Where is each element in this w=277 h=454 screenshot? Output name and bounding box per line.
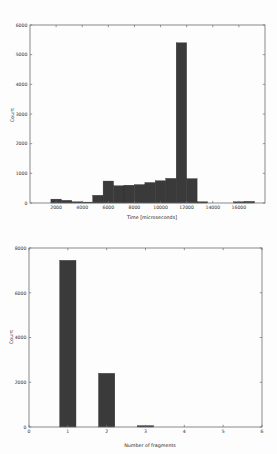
- bar: [61, 200, 71, 203]
- chart-panel-time-histogram: 2000400060008000100001200014000160000100…: [0, 0, 277, 227]
- y-tick-label: 6000: [16, 23, 28, 28]
- y-tick-label: 2000: [15, 380, 27, 385]
- y-tick-label: 2000: [16, 141, 28, 146]
- x-tick-label: 1: [66, 429, 69, 434]
- y-tick-label: 1000: [16, 171, 28, 176]
- panel-background: [0, 227, 277, 454]
- y-tick-label: 6000: [15, 291, 27, 296]
- x-tick-label: 12000: [179, 205, 194, 210]
- x-tick-label: 4: [183, 429, 186, 434]
- fragment-histogram-xlabel: Number of fragments: [124, 443, 176, 448]
- bar: [114, 186, 124, 203]
- y-tick-label: 4000: [15, 335, 27, 340]
- y-tick-label: 4000: [16, 82, 28, 87]
- bar: [166, 178, 176, 203]
- bar: [99, 373, 115, 427]
- time-histogram-ylabel: Count: [10, 108, 15, 122]
- bar: [155, 181, 165, 203]
- time-histogram-plot: 2000400060008000100001200014000160000100…: [0, 0, 277, 227]
- bar: [134, 185, 144, 203]
- x-tick-label: 3: [144, 429, 147, 434]
- x-tick-label: 6000: [102, 205, 114, 210]
- x-tick-label: 10000: [153, 205, 168, 210]
- x-tick-label: 2: [105, 429, 108, 434]
- bar: [60, 260, 76, 427]
- x-tick-label: 4000: [76, 205, 88, 210]
- x-tick-label: 16000: [232, 205, 247, 210]
- fragment-histogram-plot: 012345602000400060008000 Number of fragm…: [0, 227, 277, 454]
- chart-panel-fragment-histogram: 012345602000400060008000 Number of fragm…: [0, 227, 277, 454]
- bar: [187, 179, 197, 203]
- figure-page: 2000400060008000100001200014000160000100…: [0, 0, 277, 454]
- time-histogram-xlabel: Time [microseconds]: [126, 215, 177, 220]
- bar: [93, 195, 103, 203]
- x-tick-label: 8000: [129, 205, 141, 210]
- fragment-histogram-ylabel: Count: [9, 330, 14, 344]
- x-tick-label: 0: [28, 429, 31, 434]
- x-tick-label: 2000: [50, 205, 62, 210]
- x-tick-label: 14000: [205, 205, 220, 210]
- x-tick-label: 5: [222, 429, 225, 434]
- bar: [124, 185, 134, 203]
- bar: [145, 183, 155, 203]
- y-tick-label: 0: [24, 201, 27, 206]
- bar: [176, 43, 186, 203]
- y-tick-label: 3000: [16, 112, 28, 117]
- time-histogram-svg: 2000400060008000100001200014000160000100…: [0, 0, 277, 227]
- fragment-histogram-svg: 012345602000400060008000 Number of fragm…: [0, 227, 277, 454]
- y-tick-label: 0: [23, 425, 26, 430]
- bar: [103, 181, 113, 203]
- x-tick-label: 6: [261, 429, 264, 434]
- y-tick-label: 5000: [16, 52, 28, 57]
- y-tick-label: 8000: [15, 246, 27, 251]
